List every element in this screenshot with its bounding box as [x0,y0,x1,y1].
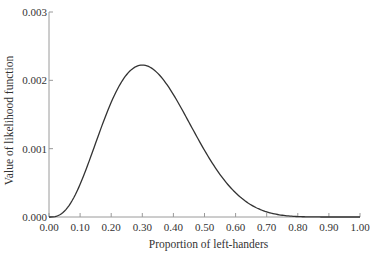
y-tick-label: 0.002 [22,74,47,86]
x-ticks: 0.000.100.200.300.400.500.600.700.800.90… [39,213,370,233]
x-tick-label: 0.00 [39,221,59,233]
x-tick-label: 0.10 [70,221,90,233]
likelihood-chart: 0.0000.0010.0020.003 0.000.100.200.300.4… [0,0,377,256]
x-tick-label: 0.40 [164,221,184,233]
y-axis-title: Value of likelihood function [3,56,15,186]
x-tick-label: 0.80 [288,221,308,233]
x-tick-label: 0.50 [195,221,215,233]
x-tick-label: 0.90 [319,221,339,233]
y-tick-label: 0.003 [22,6,47,18]
likelihood-curve [49,65,360,217]
y-tick-label: 0.001 [22,143,47,155]
axes [49,12,360,217]
x-tick-label: 0.70 [257,221,277,233]
x-axis-title: Proportion of left-handers [149,238,269,251]
y-ticks: 0.0000.0010.0020.003 [22,6,53,223]
x-tick-label: 0.30 [133,221,153,233]
x-tick-label: 0.60 [226,221,246,233]
x-tick-label: 0.20 [102,221,122,233]
x-tick-label: 1.00 [350,221,370,233]
